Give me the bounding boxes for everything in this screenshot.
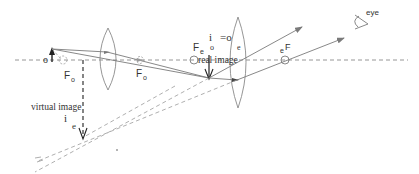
virtual-ray-2 [38,80,237,161]
virtual-ray-3 [82,86,175,138]
equals-o-label: =o [220,31,232,43]
objective-focus-left-sub: o [71,76,75,83]
objective-focus-left-label: F [64,70,70,81]
virtual-image-label: virtual image [31,102,81,112]
ray-marker-icon [232,78,239,82]
final-image-i: i [64,112,67,124]
eye-icon [355,15,368,29]
stray-dot [116,149,118,151]
ray-through-center [52,49,209,78]
intermediate-image-i-sub: o [210,43,214,52]
objective-focus-right-label: F [136,68,142,79]
eyepiece-focus-left-label: F [193,42,199,53]
final-image-i-sub: e [72,121,76,131]
equals-o-sub: e [237,43,241,52]
eyepiece-focus-right-label: F [285,42,291,52]
microscope-ray-diagram: o F o F o F e i o =o e real image e F vi… [0,0,419,174]
eyepiece-focus-left-sub: e [200,48,204,55]
object-label: o [43,54,48,65]
eyepiece-focus-right-pre: e [280,47,284,54]
virtual-ray-1 [35,78,209,172]
intermediate-image-i: i [209,31,212,43]
objective-focus-right-sub: o [143,74,147,81]
real-image-label: real image [198,55,238,65]
eye-label: eye [366,8,379,17]
